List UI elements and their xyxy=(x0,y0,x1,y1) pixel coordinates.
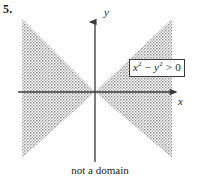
region-plot xyxy=(0,0,200,168)
figure-caption: not a domain xyxy=(0,163,200,177)
formula-relation: > 0 xyxy=(166,61,181,73)
inequality-annotation: x2 − y2 > 0 xyxy=(129,59,185,77)
figure-container: 5. y x x2 − y2 > 0 xyxy=(0,0,200,185)
formula-exponent-1: 2 xyxy=(138,60,142,68)
formula-exponent-2: 2 xyxy=(159,60,163,68)
formula-operator: − xyxy=(145,61,151,73)
y-axis-label: y xyxy=(104,6,109,18)
x-axis-label: x xyxy=(178,95,183,107)
region-right-wedge xyxy=(95,19,172,158)
region-left-wedge xyxy=(22,19,95,158)
shaded-regions xyxy=(22,19,172,158)
